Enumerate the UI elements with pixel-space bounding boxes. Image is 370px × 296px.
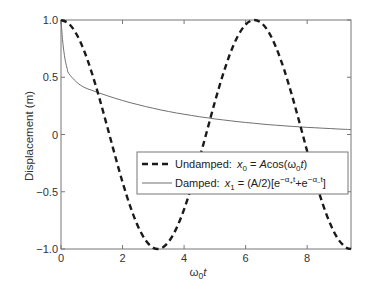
y-tick-label: −1.0 (36, 243, 58, 255)
y-tick-labels: 1.00.50−0.5−1.0 (36, 14, 58, 255)
x-tick-label: 8 (304, 252, 310, 264)
x-axis-label: ω0t (190, 266, 208, 281)
displacement-chart: 02468 1.00.50−0.5−1.0 Displacement (m) ω… (0, 0, 370, 296)
x-tick-labels: 02468 (58, 252, 310, 264)
x-tick-label: 6 (243, 252, 249, 264)
x-tick-label: 4 (181, 252, 187, 264)
y-tick-label: 0.5 (43, 71, 58, 83)
y-tick-label: 0 (52, 129, 58, 141)
y-tick-label: −0.5 (36, 186, 58, 198)
y-axis-label: Displacement (m) (23, 91, 35, 181)
legend: Undamped:x0 = Acos(ω0t) Damped:x1 = (A/2… (137, 152, 348, 194)
x-tick-label: 2 (119, 252, 125, 264)
x-tick-label: 0 (58, 252, 64, 264)
y-tick-label: 1.0 (43, 14, 58, 26)
